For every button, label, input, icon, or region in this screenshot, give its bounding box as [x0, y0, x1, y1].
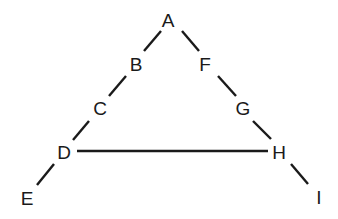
graph-diagram: ABCDEFGHI: [0, 0, 338, 219]
edge-f-g: [218, 76, 236, 96]
node-c: C: [93, 98, 107, 119]
node-i: I: [316, 187, 321, 208]
edge-c-d: [73, 121, 89, 140]
node-h: H: [272, 142, 286, 163]
edge-h-i: [291, 164, 308, 184]
edges-group: [37, 31, 308, 185]
edge-a-f: [182, 31, 199, 51]
edge-g-h: [253, 121, 271, 139]
node-e: E: [21, 188, 34, 209]
node-a: A: [162, 10, 175, 31]
edge-a-b: [144, 31, 161, 51]
diagram-svg: ABCDEFGHI: [0, 0, 338, 219]
edge-b-c: [109, 76, 126, 96]
node-f: F: [199, 54, 211, 75]
node-b: B: [130, 54, 143, 75]
node-g: G: [236, 98, 251, 119]
node-d: D: [57, 142, 71, 163]
nodes-group: ABCDEFGHI: [21, 10, 322, 209]
edge-d-e: [37, 164, 54, 185]
